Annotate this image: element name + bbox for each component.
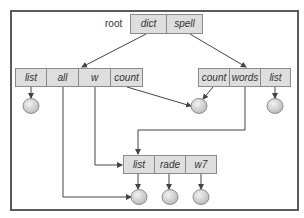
leaf-circle-shared-list (131, 190, 147, 205)
edge-spell-count (203, 87, 213, 99)
dict-cell-list: list (15, 68, 47, 87)
spell-cell-words: words (229, 68, 261, 87)
edge-root-spell (190, 34, 246, 67)
shared-cell-w7: w7 (185, 155, 217, 174)
edge-spell-words (138, 87, 245, 154)
dict-cell-w: w (78, 68, 111, 87)
leaf-circle-rade (162, 190, 178, 205)
root-cell-dict: dict (130, 14, 167, 34)
edge-dict-w (95, 87, 122, 165)
edge-root-dict (82, 34, 146, 67)
spell-cell-count: count (198, 68, 230, 87)
leaf-circle-spell-list (267, 99, 283, 114)
spell-cell-list: list (260, 68, 291, 87)
leaf-circle-w7 (193, 190, 209, 205)
dict-cell-all: all (46, 68, 79, 87)
shared-cell-rade: rade (154, 155, 186, 174)
leaf-circle-count (191, 99, 207, 114)
shared-cell-list: list (123, 155, 155, 174)
root-label: root (105, 18, 122, 30)
edge-dict-count (127, 87, 191, 106)
root-cell-spell: spell (166, 14, 203, 34)
leaf-circle-dict-list (23, 99, 39, 114)
dict-cell-count: count (110, 68, 143, 87)
edge-dict-all (63, 87, 131, 197)
